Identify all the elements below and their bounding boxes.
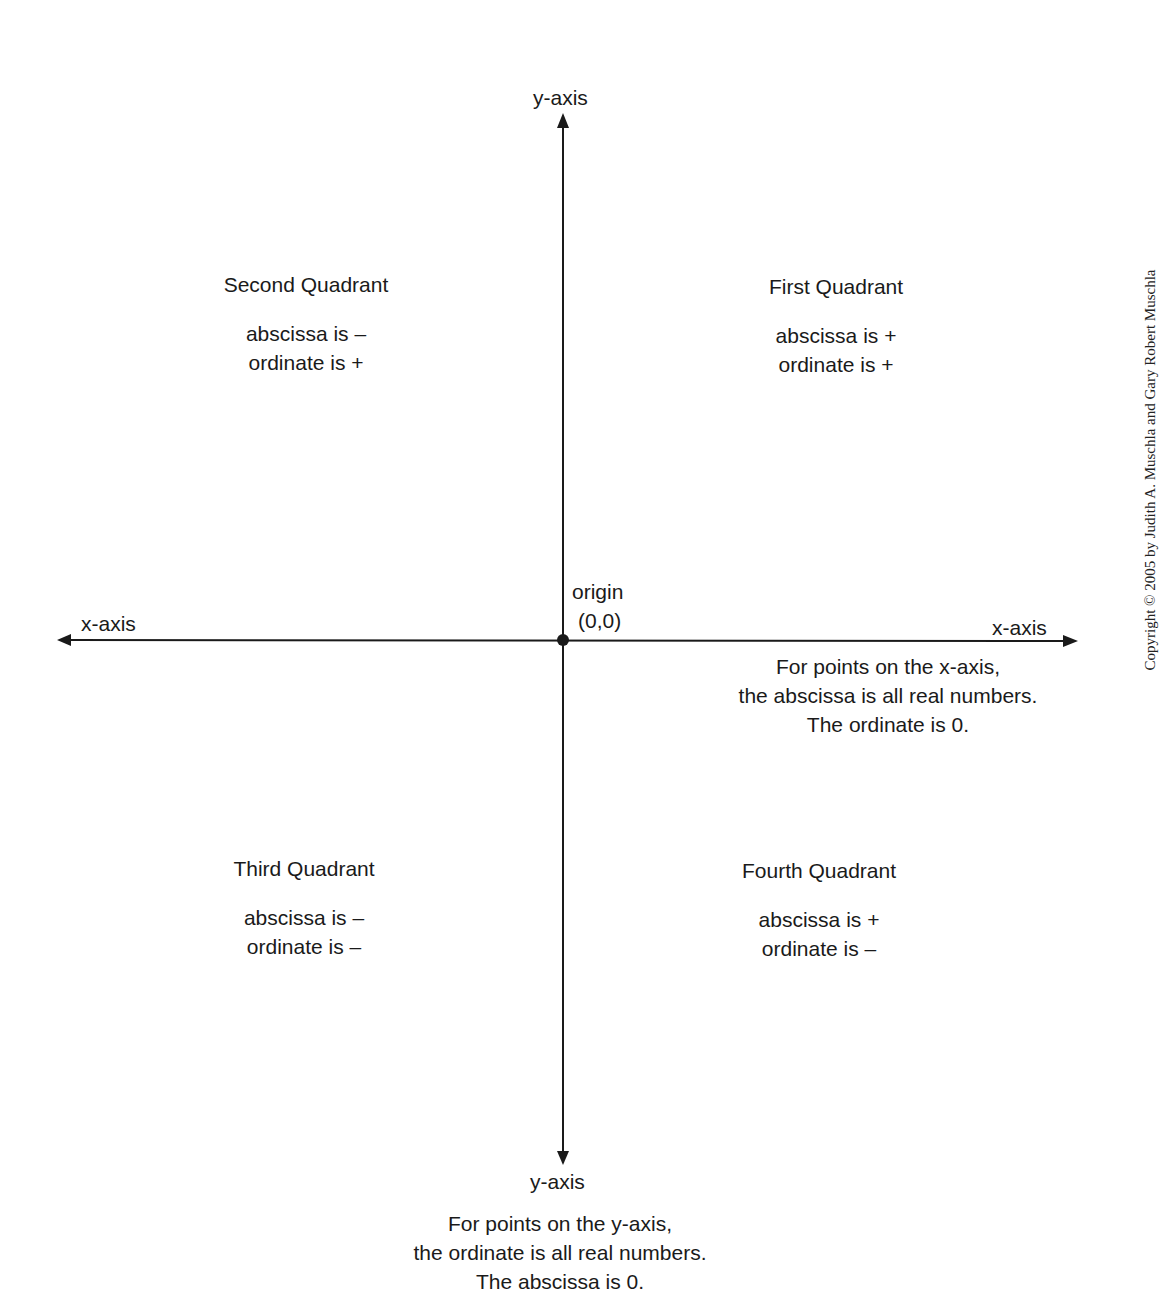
second-quadrant-title: Second Quadrant <box>206 270 406 299</box>
second-quadrant-abscissa: abscissa is – <box>206 319 406 348</box>
y-axis-note-line1: For points on the y-axis, <box>380 1209 740 1238</box>
fourth-quadrant: Fourth Quadrant abscissa is + ordinate i… <box>719 856 919 963</box>
x-axis-note: For points on the x-axis, the abscissa i… <box>707 652 1069 739</box>
y-axis-note-line3: The abscissa is 0. <box>380 1267 740 1296</box>
y-axis-down-arrow-icon <box>557 1151 569 1165</box>
origin-coords: (0,0) <box>578 606 623 635</box>
third-quadrant-title: Third Quadrant <box>204 854 404 883</box>
origin-text: origin <box>572 577 623 606</box>
fourth-quadrant-abscissa: abscissa is + <box>719 905 919 934</box>
y-axis-note: For points on the y-axis, the ordinate i… <box>380 1209 740 1296</box>
first-quadrant-abscissa: abscissa is + <box>736 321 936 350</box>
second-quadrant-ordinate: ordinate is + <box>206 348 406 377</box>
first-quadrant: First Quadrant abscissa is + ordinate is… <box>736 272 936 379</box>
x-axis-right-arrow-icon <box>1063 635 1078 647</box>
y-axis-bottom-label: y-axis <box>530 1167 585 1196</box>
x-axis-left-label: x-axis <box>81 609 136 638</box>
x-axis-note-line2: the abscissa is all real numbers. <box>707 681 1069 710</box>
third-quadrant-ordinate: ordinate is – <box>204 932 404 961</box>
third-quadrant: Third Quadrant abscissa is – ordinate is… <box>204 854 404 961</box>
fourth-quadrant-title: Fourth Quadrant <box>719 856 919 885</box>
origin-point <box>557 634 569 646</box>
copyright-notice: Copyright © 2005 by Judith A. Muschla an… <box>1142 270 1159 671</box>
x-axis-left-arrow-icon <box>57 634 71 646</box>
x-axis-note-line1: For points on the x-axis, <box>707 652 1069 681</box>
origin-label: origin (0,0) <box>572 577 623 635</box>
third-quadrant-abscissa: abscissa is – <box>204 903 404 932</box>
y-axis-up-arrow-icon <box>557 113 569 128</box>
fourth-quadrant-ordinate: ordinate is – <box>719 934 919 963</box>
x-axis-note-line3: The ordinate is 0. <box>707 710 1069 739</box>
first-quadrant-ordinate: ordinate is + <box>736 350 936 379</box>
x-axis-right-label: x-axis <box>992 613 1047 642</box>
y-axis-note-line2: the ordinate is all real numbers. <box>380 1238 740 1267</box>
first-quadrant-title: First Quadrant <box>736 272 936 301</box>
y-axis-top-label: y-axis <box>533 83 588 112</box>
second-quadrant: Second Quadrant abscissa is – ordinate i… <box>206 270 406 377</box>
